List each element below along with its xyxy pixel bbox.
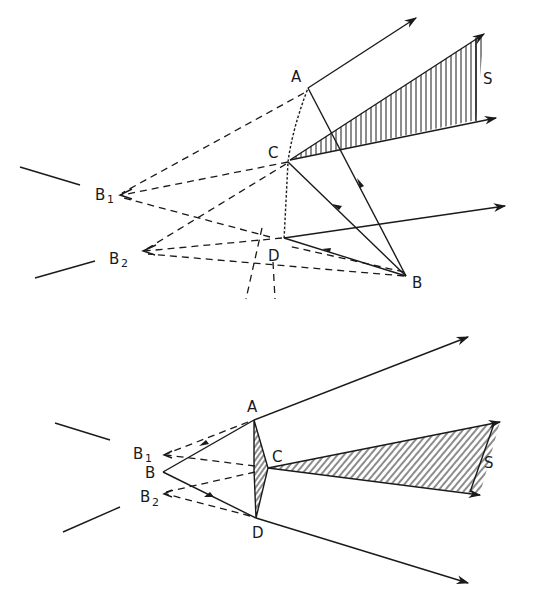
bottom-guide-line-upper bbox=[55, 423, 110, 440]
top-guide-line-lower bbox=[35, 261, 95, 278]
top-ray-b-to-c bbox=[288, 162, 406, 276]
top-label-s: S bbox=[483, 70, 493, 88]
top-ray-from-a bbox=[308, 18, 416, 88]
top-ray-b-to-d bbox=[284, 238, 406, 276]
bottom-dash-a-b1 bbox=[166, 422, 248, 454]
ray-diagram-figure: A C D B S B 1 B 2 A bbox=[0, 0, 543, 603]
bottom-label-b1: B bbox=[133, 445, 143, 463]
bottom-guide-line-lower bbox=[63, 507, 120, 532]
bottom-ray-from-d bbox=[256, 518, 468, 583]
bottom-label-a: A bbox=[247, 398, 258, 416]
top-label-b1: B bbox=[95, 186, 105, 204]
top-label-b1-sub: 1 bbox=[107, 193, 114, 206]
top-label-b2-sub: 2 bbox=[121, 257, 128, 270]
top-element-strip bbox=[284, 88, 308, 240]
top-label-b2: B bbox=[109, 250, 119, 268]
bottom-label-b2-sub: 2 bbox=[152, 496, 159, 509]
bottom-ray-from-a bbox=[254, 337, 468, 420]
bottom-diagram: A C D B S B 1 B 2 bbox=[55, 337, 500, 583]
bottom-b1-arrowhead bbox=[164, 451, 172, 458]
top-label-c: C bbox=[268, 144, 278, 162]
top-dash-d-b1 bbox=[124, 198, 270, 237]
top-diagram: A C D B S B 1 B 2 bbox=[20, 18, 505, 299]
bottom-dash-c-b1 bbox=[166, 455, 255, 466]
top-guide-line-upper bbox=[20, 167, 80, 185]
top-ray-from-d bbox=[284, 206, 505, 238]
bottom-label-s: S bbox=[484, 454, 494, 472]
bottom-dash-d-b2 bbox=[166, 494, 250, 516]
bottom-dash-c-b2 bbox=[166, 472, 255, 492]
top-dash-a-b1 bbox=[122, 93, 304, 193]
top-label-a: A bbox=[291, 68, 302, 86]
top-label-b: B bbox=[412, 274, 422, 292]
bottom-label-c: C bbox=[272, 448, 282, 466]
top-label-d: D bbox=[268, 247, 280, 265]
bottom-lens-element bbox=[254, 420, 268, 518]
top-dash-vertical-right bbox=[273, 262, 275, 299]
top-dash-d-b2 bbox=[145, 238, 282, 251]
bottom-label-b2: B bbox=[140, 488, 150, 506]
bottom-label-d: D bbox=[252, 524, 264, 542]
bottom-label-b1-sub: 1 bbox=[145, 452, 152, 465]
bottom-label-b: B bbox=[145, 464, 155, 482]
